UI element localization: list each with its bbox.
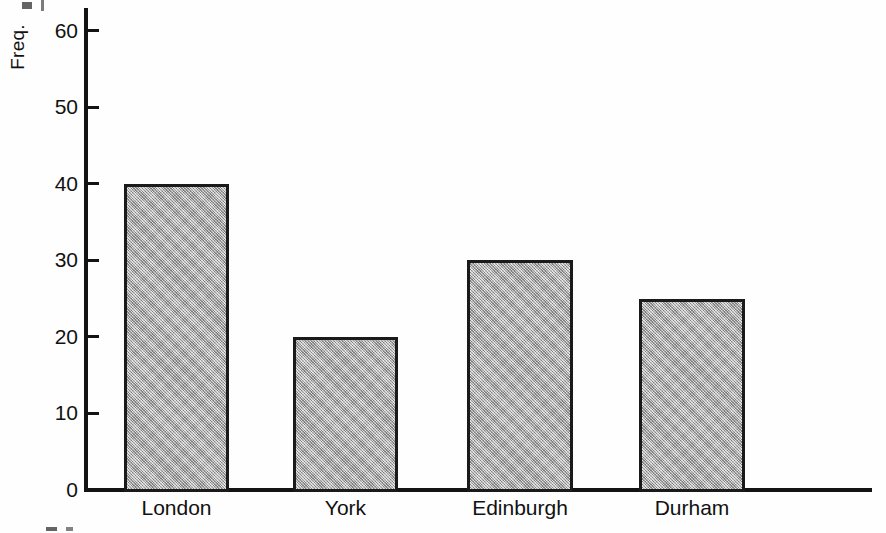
x-tick-label-london: London — [84, 497, 269, 519]
x-tick-label-edinburgh: Edinburgh — [427, 497, 613, 519]
bar-durham — [639, 299, 745, 492]
y-tick-label-40: 40 — [34, 173, 78, 194]
bar-edinburgh — [467, 260, 573, 492]
y-tick-label-wrap-0: 0 — [0, 479, 78, 500]
y-tick-mark-60 — [88, 29, 99, 32]
y-tick-label-50: 50 — [34, 96, 78, 117]
y-tick-label-wrap-10: 10 — [0, 402, 78, 423]
scan-artifact-bottom-right — [66, 527, 73, 531]
scan-artifact-top-stroke — [41, 0, 44, 11]
y-axis-line — [84, 8, 88, 492]
y-tick-label-20: 20 — [34, 326, 78, 347]
y-tick-mark-20 — [88, 335, 99, 338]
y-tick-label-wrap-60: 60 — [0, 20, 78, 41]
y-tick-label-wrap-50: 50 — [0, 96, 78, 117]
bar-chart-figure: Freq. 0102030405060 LondonYorkEdinburghD… — [0, 0, 886, 533]
y-tick-mark-0 — [88, 489, 99, 492]
y-tick-mark-50 — [88, 106, 99, 109]
scan-artifact-bottom-left — [46, 527, 57, 531]
y-tick-mark-10 — [88, 412, 99, 415]
y-tick-label-30: 30 — [34, 249, 78, 270]
y-tick-label-wrap-20: 20 — [0, 326, 78, 347]
y-tick-label-10: 10 — [34, 402, 78, 423]
x-tick-label-york: York — [253, 497, 438, 519]
x-tick-label-durham: Durham — [599, 497, 785, 519]
bar-york — [293, 337, 398, 492]
scan-artifact-top-left — [22, 2, 32, 9]
y-tick-label-wrap-30: 30 — [0, 249, 78, 270]
y-tick-label-60: 60 — [34, 20, 78, 41]
y-tick-label-wrap-40: 40 — [0, 173, 78, 194]
y-tick-mark-40 — [88, 182, 99, 185]
y-tick-mark-30 — [88, 259, 99, 262]
y-tick-label-0: 0 — [34, 479, 78, 500]
bar-london — [124, 184, 229, 492]
